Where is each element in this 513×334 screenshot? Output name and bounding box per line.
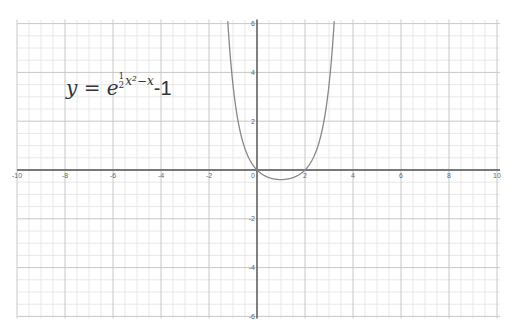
x-tick-label: -4 (158, 172, 164, 179)
y-tick-label: 6 (251, 20, 255, 27)
formula-lhs: y = e (66, 76, 119, 100)
function-plot: -10-8-6-4-20246810642-2-4-6 (0, 0, 513, 334)
x-tick-label: -10 (12, 172, 22, 179)
y-tick-label: -4 (249, 264, 255, 271)
formula-label: y = e12x²−x-1 (66, 76, 172, 100)
y-tick-label: -6 (249, 313, 255, 320)
formula-tail: -1 (154, 77, 172, 99)
x-tick-label: 4 (351, 172, 355, 179)
formula-exponent: x²−x (125, 74, 153, 88)
formula-fraction: 12 (119, 72, 125, 90)
minor-grid (17, 20, 500, 319)
x-tick-label: -8 (62, 172, 68, 179)
y-tick-label: 4 (251, 69, 255, 76)
fraction-denominator: 2 (119, 81, 125, 90)
x-tick-label: -6 (110, 172, 116, 179)
x-tick-label: -2 (206, 172, 212, 179)
x-tick-label: 2 (303, 172, 307, 179)
x-tick-label: 10 (493, 172, 501, 179)
y-tick-label: -2 (249, 215, 255, 222)
y-tick-label: 2 (251, 118, 255, 125)
x-tick-label: 8 (447, 172, 451, 179)
x-tick-label: 6 (399, 172, 403, 179)
x-tick-label: 0 (251, 172, 255, 179)
